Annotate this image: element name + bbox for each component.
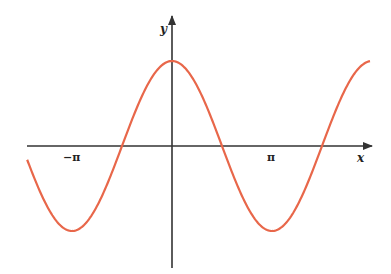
cosine-chart: y x −π π [0,0,391,274]
x-axis-label: x [356,151,365,165]
tick-label-pi: π [267,151,275,164]
tick-label-neg-pi: −π [63,151,80,164]
y-axis-label: y [159,22,168,36]
